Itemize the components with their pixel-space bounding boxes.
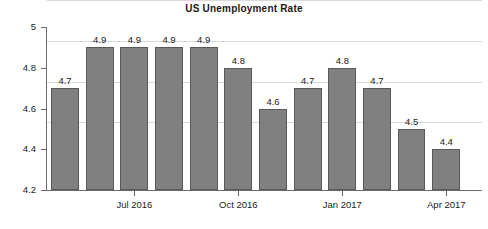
y-axis-tick <box>41 68 46 69</box>
bar[interactable] <box>328 68 356 190</box>
y-axis-tick <box>41 27 46 28</box>
y-axis-tick <box>41 190 46 191</box>
bar[interactable] <box>86 47 114 190</box>
bar[interactable] <box>120 47 148 190</box>
bar-value-label: 4.5 <box>405 116 418 127</box>
gridline <box>47 0 482 1</box>
bar-value-label: 4.9 <box>93 34 106 45</box>
x-axis-tick <box>134 191 135 196</box>
x-axis-line <box>46 190 482 191</box>
bar-value-label: 4.9 <box>128 34 141 45</box>
x-axis-tick-label: Oct 2016 <box>219 199 258 210</box>
bar[interactable] <box>294 88 322 190</box>
x-axis-tick <box>238 191 239 196</box>
bar-value-label: 4.7 <box>370 75 383 86</box>
bar-value-label: 4.8 <box>232 55 245 66</box>
x-axis-tick <box>446 191 447 196</box>
bar[interactable] <box>398 129 426 190</box>
bar[interactable] <box>432 149 460 190</box>
y-axis-tick-label: 4.8 <box>23 62 36 73</box>
y-axis-tick-label: 4.6 <box>23 103 36 114</box>
bar-value-label: 4.9 <box>197 34 210 45</box>
bar[interactable] <box>224 68 252 190</box>
y-axis-line <box>46 27 47 191</box>
chart-container: US Unemployment Rate 4.24.44.64.85 Jul 2… <box>0 0 488 229</box>
x-axis-tick <box>342 191 343 196</box>
bar-value-label: 4.7 <box>58 75 71 86</box>
gridline <box>47 41 482 42</box>
y-axis-tick <box>41 109 46 110</box>
bar-value-label: 4.8 <box>336 55 349 66</box>
y-axis-tick-label: 4.2 <box>23 184 36 195</box>
bar-value-label: 4.6 <box>266 96 279 107</box>
x-axis-tick-label: Apr 2017 <box>427 199 466 210</box>
bar-value-label: 4.4 <box>440 136 453 147</box>
bar-value-label: 4.7 <box>301 75 314 86</box>
y-axis-tick-label: 5 <box>31 21 36 32</box>
bar[interactable] <box>259 109 287 191</box>
y-axis-tick <box>41 149 46 150</box>
x-axis-tick-label: Jul 2016 <box>116 199 152 210</box>
bar[interactable] <box>155 47 183 190</box>
y-axis-tick-label: 4.4 <box>23 143 36 154</box>
bar[interactable] <box>51 88 79 190</box>
bar[interactable] <box>363 88 391 190</box>
bar[interactable] <box>190 47 218 190</box>
x-axis-tick-label: Jan 2017 <box>323 199 362 210</box>
chart-title: US Unemployment Rate <box>0 3 488 14</box>
bar-value-label: 4.9 <box>162 34 175 45</box>
